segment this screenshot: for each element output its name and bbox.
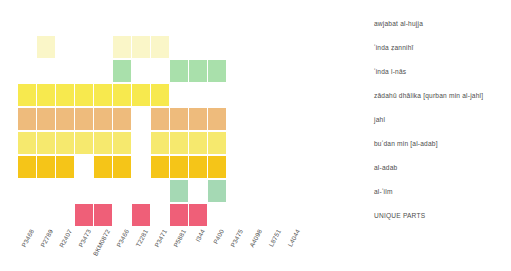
heatmap-cell[interactable]: [56, 84, 74, 106]
heatmap-cell[interactable]: [189, 132, 207, 154]
heatmap-cell[interactable]: [56, 132, 74, 154]
heatmap-cell[interactable]: [94, 132, 112, 154]
heatmap-row-label: al-adab: [374, 156, 397, 180]
heatmap-cell[interactable]: [151, 84, 169, 106]
heatmap-row-label-axis: awjabat al-hujjaʻinda ẓannihīʻinda l-nās…: [374, 12, 511, 228]
heatmap-cell[interactable]: [37, 156, 55, 178]
heatmap-cell[interactable]: [113, 108, 131, 130]
heatmap-cell[interactable]: [94, 156, 112, 178]
heatmap-cell[interactable]: [75, 84, 93, 106]
heatmap-cell[interactable]: [151, 132, 169, 154]
heatmap-cell[interactable]: [189, 156, 207, 178]
heatmap-row-label: ʻinda ẓannihī: [374, 36, 414, 60]
heatmap-cell[interactable]: [37, 36, 55, 58]
heatmap-cell[interactable]: [151, 108, 169, 130]
heatmap-cell[interactable]: [37, 132, 55, 154]
heatmap-cell[interactable]: [18, 108, 36, 130]
heatmap-row-label: buʻdan min [al-adab]: [374, 132, 438, 156]
heatmap-cell[interactable]: [208, 132, 226, 154]
heatmap-cell[interactable]: [170, 132, 188, 154]
heatmap-cell[interactable]: [170, 108, 188, 130]
heatmap-row-label: al-ʻilm: [374, 180, 393, 204]
heatmap-cell[interactable]: [56, 108, 74, 130]
heatmap-cell[interactable]: [113, 84, 131, 106]
heatmap-cell[interactable]: [18, 156, 36, 178]
heatmap-cell[interactable]: [189, 108, 207, 130]
heatmap-plot-area: [18, 12, 310, 228]
heatmap-cell[interactable]: [94, 84, 112, 106]
heatmap-row-label: jahl: [374, 108, 385, 132]
heatmap-chart: awjabat al-hujjaʻinda ẓannihīʻinda l-nās…: [0, 0, 511, 271]
heatmap-cell[interactable]: [113, 36, 131, 58]
heatmap-row-label: UNIQUE PARTS: [374, 204, 425, 228]
heatmap-cell[interactable]: [113, 156, 131, 178]
heatmap-cell[interactable]: [18, 132, 36, 154]
heatmap-cell[interactable]: [94, 108, 112, 130]
heatmap-cell[interactable]: [75, 132, 93, 154]
heatmap-cell[interactable]: [151, 36, 169, 58]
heatmap-cell[interactable]: [132, 36, 150, 58]
heatmap-cell[interactable]: [37, 84, 55, 106]
heatmap-cell[interactable]: [208, 180, 226, 202]
heatmap-cell[interactable]: [170, 60, 188, 82]
heatmap-cell[interactable]: [170, 180, 188, 202]
heatmap-cell[interactable]: [208, 156, 226, 178]
heatmap-cell[interactable]: [37, 108, 55, 130]
heatmap-cell[interactable]: [170, 156, 188, 178]
heatmap-cell[interactable]: [18, 84, 36, 106]
heatmap-row-label: awjabat al-hujja: [374, 12, 423, 36]
heatmap-cell[interactable]: [132, 84, 150, 106]
heatmap-cell[interactable]: [113, 132, 131, 154]
heatmap-cell[interactable]: [208, 60, 226, 82]
heatmap-row-label: zādahū dhālika [qurban min al-jahl]: [374, 84, 483, 108]
heatmap-cell[interactable]: [113, 60, 131, 82]
heatmap-cell[interactable]: [56, 156, 74, 178]
heatmap-row-label: ʻinda l-nās: [374, 60, 406, 84]
heatmap-cell[interactable]: [151, 156, 169, 178]
heatmap-cell[interactable]: [189, 60, 207, 82]
heatmap-column-label-axis: P3468P2789R2407P3473BKM0872P3466T2281P34…: [18, 228, 358, 271]
heatmap-cell[interactable]: [75, 108, 93, 130]
heatmap-cell[interactable]: [208, 108, 226, 130]
